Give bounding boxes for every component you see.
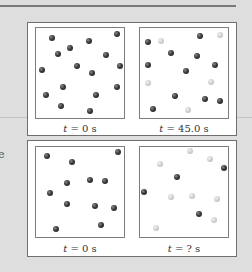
molecule-dark [145, 39, 151, 45]
top-rule [0, 5, 236, 7]
molecule-light [211, 217, 217, 223]
molecule-dark [53, 226, 59, 232]
panel-label-bottom-right: t = ? s [139, 243, 229, 254]
molecule-dark [115, 149, 121, 155]
molecule-dark [212, 62, 218, 68]
panel-label-top-right: t = 45.0 s [139, 123, 229, 134]
molecule-light [185, 107, 191, 113]
panel-label-bottom-left: t = 0 s [35, 243, 125, 254]
molecule-dark [183, 68, 189, 74]
panel-top-right [139, 27, 229, 119]
molecule-dark [64, 180, 70, 186]
molecule-dark [145, 62, 151, 68]
molecule-dark [69, 159, 75, 165]
label-value: = 0 s [67, 243, 96, 254]
molecule-dark [47, 190, 53, 196]
molecule-dark [141, 189, 147, 195]
molecule-dark [87, 177, 93, 183]
molecule-dark [102, 178, 108, 184]
molecule-dark [98, 222, 104, 228]
molecule-dark [202, 96, 208, 102]
label-value: = 45.0 s [163, 123, 208, 134]
molecule-dark [117, 63, 123, 69]
molecule-light [207, 156, 213, 162]
molecule-dark [74, 63, 80, 69]
panel-bottom-left [35, 146, 125, 238]
molecule-dark [86, 38, 92, 44]
molecule-dark [55, 51, 61, 57]
panel-top-left [35, 27, 125, 119]
molecule-light [208, 79, 214, 85]
molecule-dark [64, 201, 70, 207]
molecule-dark [103, 52, 109, 58]
molecule-dark [92, 203, 98, 209]
molecule-dark [89, 70, 95, 76]
molecule-dark [111, 205, 117, 211]
panel-label-top-left: t = 0 s [35, 123, 125, 134]
side-text-fragment: e [0, 148, 5, 161]
label-value: = ? s [172, 243, 200, 254]
molecule-dark [196, 211, 202, 217]
molecule-dark [172, 93, 178, 99]
molecule-dark [58, 103, 64, 109]
molecule-light [187, 148, 193, 154]
molecule-light [157, 161, 163, 167]
molecule-dark [114, 84, 120, 90]
molecule-dark [44, 153, 50, 159]
molecule-dark [114, 31, 120, 37]
molecule-light [214, 196, 220, 202]
molecule-dark [60, 84, 66, 90]
molecule-light [217, 32, 223, 38]
molecule-dark [87, 108, 93, 114]
label-value: = 0 s [67, 123, 96, 134]
figure-bottom: t = 0 s t = ? s [27, 140, 237, 257]
molecule-dark [217, 98, 223, 104]
molecule-light [153, 225, 159, 231]
molecule-light [189, 193, 195, 199]
molecule-dark [168, 50, 174, 56]
molecule-dark [39, 67, 45, 73]
molecule-dark [174, 174, 180, 180]
molecule-light [145, 80, 151, 86]
molecule-light [168, 194, 174, 200]
molecule-dark [221, 165, 227, 171]
molecule-light [158, 38, 164, 44]
molecule-dark [93, 92, 99, 98]
molecule-dark [67, 45, 73, 51]
molecule-dark [197, 33, 203, 39]
molecule-dark [49, 35, 55, 41]
figure-top: t = 0 s t = 45.0 s [27, 22, 237, 136]
molecule-dark [43, 92, 49, 98]
molecule-dark [150, 106, 156, 112]
molecule-dark [194, 53, 200, 59]
panel-bottom-right [139, 146, 229, 238]
